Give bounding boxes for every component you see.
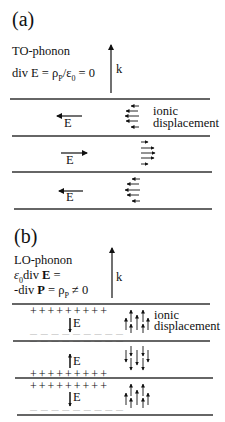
layer-boundaries-a <box>10 99 212 209</box>
ion-arrows-left-1 <box>125 106 139 127</box>
ion-arrows-up-1 <box>126 310 148 333</box>
ion-arrows-up-3 <box>126 384 148 408</box>
ion-arrows-right-2 <box>141 142 155 164</box>
ion-arrows-down-2 <box>126 346 148 370</box>
diagram-graphics <box>0 0 225 422</box>
layer-boundaries-b <box>12 304 213 415</box>
ion-arrows-left-3 <box>125 179 140 201</box>
